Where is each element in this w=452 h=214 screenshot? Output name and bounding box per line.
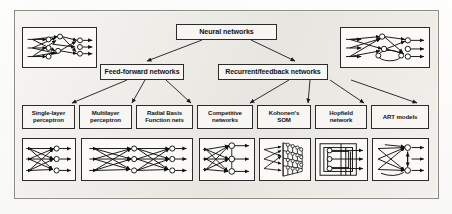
illustration-hopfield-network-sketch [315, 138, 368, 181]
node-label: Radial Basis Function nets [145, 110, 184, 124]
node-kohonens-som[interactable]: Kohonen's SOM [257, 105, 311, 129]
illustration-dense-feedback-network-sketch [340, 27, 430, 68]
diagram-frame: Neural networks Feed-forward networks Re… [14, 10, 439, 199]
illustration-multilayer-perceptron-sketch [81, 138, 193, 181]
illustration-competitive-network-sketch [199, 138, 255, 181]
node-multilayer-perceptron[interactable]: Multilayer perceptron [79, 105, 132, 129]
node-label: Single-layer perceptron [32, 110, 65, 124]
node-label: Kohonen's SOM [269, 110, 299, 124]
node-competitive-networks[interactable]: Competitive networks [197, 105, 253, 129]
figure-canvas: Neural networks Feed-forward networks Re… [0, 0, 452, 214]
node-radial-basis-function-nets[interactable]: Radial Basis Function nets [136, 105, 193, 129]
node-feed-forward-networks[interactable]: Feed-forward networks [100, 64, 184, 80]
node-label: Hopfield network [329, 110, 353, 124]
illustration-kohonen-som-lattice-sketch [259, 138, 311, 181]
node-recurrent-feedback-networks[interactable]: Recurrent/feedback networks [218, 64, 328, 80]
illustration-dense-recurrent-network-sketch [22, 27, 97, 68]
node-label: Recurrent/feedback networks [225, 68, 320, 76]
illustration-art-model-sketch [372, 138, 429, 181]
illustration-single-layer-perceptron-sketch [22, 138, 76, 181]
node-label: Competitive networks [208, 110, 242, 124]
node-neural-networks[interactable]: Neural networks [176, 24, 277, 40]
node-single-layer-perceptron[interactable]: Single-layer perceptron [22, 105, 75, 129]
node-art-models[interactable]: ART models [371, 105, 429, 129]
node-hopfield-network[interactable]: Hopfield network [315, 105, 367, 129]
node-label: Feed-forward networks [105, 68, 180, 76]
node-label: ART models [383, 114, 418, 121]
node-label: Neural networks [199, 28, 253, 36]
node-label: Multilayer perceptron [90, 110, 121, 124]
